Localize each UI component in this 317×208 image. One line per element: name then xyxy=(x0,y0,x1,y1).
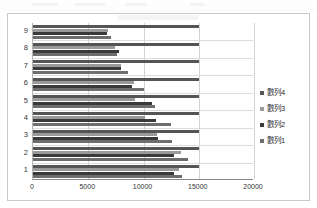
y-axis-tick-4: 4 xyxy=(8,114,28,122)
x-axis-tick-15000: 15000 xyxy=(188,183,207,190)
legend-swatch-icon xyxy=(260,107,264,111)
plot-area xyxy=(32,23,253,180)
legend-label: 數列4 xyxy=(267,88,285,97)
bar-數列1-category-9 xyxy=(33,36,111,39)
gridline-20000 xyxy=(254,23,255,179)
legend-swatch-icon xyxy=(260,91,264,95)
bar-group-category-6 xyxy=(33,75,253,92)
y-axis-tick-5: 5 xyxy=(8,97,28,105)
bar-group-category-4 xyxy=(33,110,253,127)
y-axis-tick-1: 1 xyxy=(8,166,28,174)
y-axis-tick-8: 8 xyxy=(8,44,28,52)
bar-數列1-category-4 xyxy=(33,123,171,126)
bar-group-category-2 xyxy=(33,145,253,162)
legend-label: 數列3 xyxy=(267,104,285,113)
bar-數列1-category-8 xyxy=(33,53,117,56)
bar-group-category-7 xyxy=(33,58,253,75)
legend-item-數列1[interactable]: 數列1 xyxy=(260,136,308,145)
bar-group-category-3 xyxy=(33,128,253,145)
x-axis-tick-5000: 5000 xyxy=(79,183,95,190)
y-axis-tick-9: 9 xyxy=(8,27,28,35)
y-axis-tick-6: 6 xyxy=(8,79,28,87)
x-axis-tick-20000: 20000 xyxy=(243,183,262,190)
bar-數列1-category-2 xyxy=(33,158,188,161)
legend-label: 數列1 xyxy=(267,136,285,145)
x-axis-tick-0: 0 xyxy=(30,183,34,190)
bar-group-category-5 xyxy=(33,93,253,110)
bar-group-category-9 xyxy=(33,23,253,40)
legend-swatch-icon xyxy=(260,139,264,143)
legend-label: 數列2 xyxy=(267,120,285,129)
bar-數列1-category-1 xyxy=(33,175,182,178)
bar-數列1-category-6 xyxy=(33,88,144,91)
scan-artifact-strip xyxy=(0,0,317,12)
legend-item-數列2[interactable]: 數列2 xyxy=(260,120,308,129)
legend-item-數列3[interactable]: 數列3 xyxy=(260,104,308,113)
chart-legend: 數列4數列3數列2數列1 xyxy=(260,88,308,152)
bar-數列1-category-7 xyxy=(33,71,128,74)
chart-container: 123456789 05000100001500020000 數列4數列3數列2… xyxy=(7,13,310,201)
chart-title-area xyxy=(118,15,198,20)
bar-group-category-1 xyxy=(33,163,253,180)
y-axis-tick-3: 3 xyxy=(8,131,28,139)
bar-數列1-category-5 xyxy=(33,105,155,108)
x-axis-tick-10000: 10000 xyxy=(133,183,152,190)
legend-item-數列4[interactable]: 數列4 xyxy=(260,88,308,97)
chart-screenshot: 123456789 05000100001500020000 數列4數列3數列2… xyxy=(0,0,317,208)
bar-group-category-8 xyxy=(33,40,253,57)
y-axis-tick-7: 7 xyxy=(8,62,28,70)
legend-swatch-icon xyxy=(260,123,264,127)
y-axis-tick-2: 2 xyxy=(8,149,28,157)
bar-數列1-category-3 xyxy=(33,140,172,143)
